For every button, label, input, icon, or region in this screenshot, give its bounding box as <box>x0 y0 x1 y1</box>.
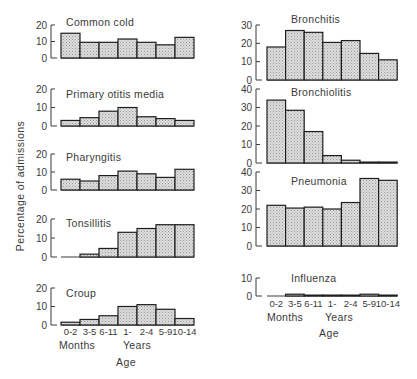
bar-1- <box>323 209 342 246</box>
bar-2-4 <box>137 42 156 58</box>
y-tick-label: 20 <box>36 214 48 225</box>
y-tick-label: 10 <box>36 233 48 244</box>
panel-tonsillitis: Tonsillitis01020 <box>36 214 194 263</box>
bar-6-11 <box>304 32 323 80</box>
bar-5-9 <box>156 45 175 58</box>
bar-0-2 <box>267 100 286 163</box>
bar-2-4 <box>137 174 156 190</box>
y-tick-label: 10 <box>36 102 48 113</box>
panel-title: Common cold <box>66 16 134 28</box>
bar-1- <box>323 295 342 296</box>
y-tick-label: 30 <box>241 102 253 113</box>
bar-6-11 <box>99 42 118 58</box>
bar-0-2 <box>61 33 80 58</box>
x-tick-label: 0-2 <box>269 298 283 309</box>
bar-0-2 <box>267 47 286 80</box>
y-tick-label: 10 <box>36 36 48 47</box>
bar-1- <box>323 42 342 80</box>
bar-3-5 <box>286 110 305 163</box>
bar-3-5 <box>80 319 99 325</box>
bar-10-14 <box>379 162 398 163</box>
x-tick-label: 1- <box>328 298 336 309</box>
bar-0-2 <box>61 322 80 325</box>
bar-2-4 <box>137 117 156 126</box>
y-axis-title: Percentage of admissions <box>14 121 26 251</box>
bar-10-14 <box>175 169 194 190</box>
y-tick-label: 10 <box>36 301 48 312</box>
x-axis-labels-left: 0-23-56-111-2-45-910-14MonthsYearsAge <box>59 326 197 368</box>
bar-5-9 <box>156 119 175 126</box>
bar-5-9 <box>156 309 175 325</box>
panel-title: Primary otitis media <box>66 88 164 100</box>
x-axis-labels-right: 0-23-56-111-2-45-910-14MonthsYearsAge <box>267 298 400 339</box>
x-tick-label: 10-14 <box>376 298 400 309</box>
x-tick-label: 2-4 <box>344 298 358 309</box>
y-tick-label: 30 <box>241 185 253 196</box>
y-tick-label: 20 <box>36 283 48 294</box>
x-tick-label: 3-5 <box>288 298 302 309</box>
bar-5-9 <box>360 162 379 163</box>
bar-0-2 <box>61 179 80 190</box>
bar-6-11 <box>99 176 118 190</box>
y-tick-label: 0 <box>41 320 47 331</box>
y-tick-label: 10 <box>241 222 253 233</box>
x-tick-label: 3-5 <box>83 326 97 337</box>
panel-bronchiolitis: Bronchiolitis010203040 <box>241 84 397 169</box>
y-tick-label: 10 <box>36 167 48 178</box>
x-axis-title: Age <box>116 356 136 368</box>
x-axis-title: Age <box>319 327 339 339</box>
x-tick-label: 5-9 <box>362 298 376 309</box>
x-tick-label: 10-14 <box>172 326 196 337</box>
bar-2-4 <box>341 41 360 80</box>
bar-2-4 <box>341 160 360 163</box>
y-tick-label: 20 <box>36 84 48 95</box>
bar-5-9 <box>360 294 379 296</box>
x-group-label: Months <box>267 311 303 323</box>
panel-title: Influenza <box>291 272 336 284</box>
y-tick-label: 40 <box>241 84 253 95</box>
bar-5-9 <box>360 178 379 246</box>
bar-1- <box>118 39 137 58</box>
x-tick-label: 6-11 <box>99 326 117 337</box>
y-tick-label: 0 <box>246 241 252 252</box>
y-tick-label: 0 <box>246 291 252 302</box>
x-group-label: Years <box>325 311 353 323</box>
bar-1- <box>323 156 342 163</box>
y-tick-label: 20 <box>36 20 48 31</box>
bar-6-11 <box>99 248 118 257</box>
bar-2-4 <box>341 295 360 296</box>
bar-3-5 <box>286 208 305 246</box>
bar-2-4 <box>137 229 156 258</box>
bar-0-2 <box>61 120 80 126</box>
y-tick-label: 30 <box>241 20 253 31</box>
bar-5-9 <box>156 177 175 190</box>
bar-3-5 <box>80 254 99 257</box>
bar-10-14 <box>175 37 194 58</box>
bar-2-4 <box>137 305 156 325</box>
bar-10-14 <box>175 319 194 325</box>
y-tick-label: 10 <box>241 56 253 67</box>
chart-canvas: Percentage of admissions Common cold0102… <box>0 0 417 379</box>
panel-title: Tonsillitis <box>66 217 111 229</box>
panel-title: Bronchitis <box>291 13 340 25</box>
panel-common-cold: Common cold01020 <box>36 16 194 64</box>
x-tick-label: 1- <box>123 326 131 337</box>
bar-6-11 <box>99 316 118 325</box>
panel-bronchitis: Bronchitis0102030 <box>241 13 397 86</box>
panel-primary-otitis-media: Primary otitis media01020 <box>36 84 194 132</box>
x-tick-label: 0-2 <box>64 326 78 337</box>
y-tick-label: 10 <box>241 273 253 284</box>
panel-title: Pneumonia <box>291 175 347 187</box>
x-tick-label: 5-9 <box>159 326 173 337</box>
bar-6-11 <box>304 132 323 163</box>
panel-croup: Croup01020 <box>36 283 194 331</box>
y-tick-label: 20 <box>241 204 253 215</box>
bar-1- <box>118 307 137 326</box>
bar-3-5 <box>80 118 99 126</box>
bar-3-5 <box>286 31 305 81</box>
bar-10-14 <box>379 60 398 80</box>
panel-title: Croup <box>66 287 96 299</box>
y-tick-label: 20 <box>241 121 253 132</box>
x-tick-label: 6-11 <box>304 298 322 309</box>
bar-10-14 <box>175 120 194 126</box>
